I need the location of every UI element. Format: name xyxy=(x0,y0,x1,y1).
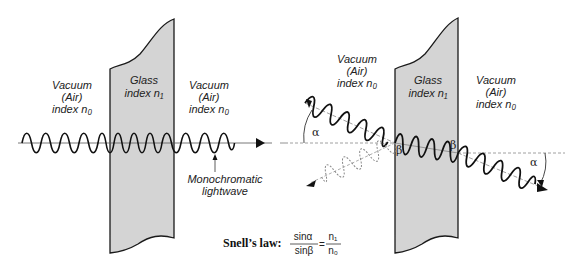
formula-n0: n₀ xyxy=(328,245,338,256)
label-monochromatic: Monochromatic xyxy=(187,173,263,185)
label-beta-entry: β xyxy=(396,144,402,157)
reflected-arrowhead xyxy=(306,180,316,187)
label-air-right: (Air) xyxy=(199,91,220,103)
label-vacuum-right: Vacuum xyxy=(189,79,229,91)
exit-wave xyxy=(455,145,539,193)
label-lightwave: lightwave xyxy=(202,185,248,197)
label-air-incident-side: (Air) xyxy=(347,65,368,77)
label-index-glass: index n₁ xyxy=(125,87,164,99)
label-air-left: (Air) xyxy=(62,91,83,103)
label-air-exit-side: (Air) xyxy=(486,86,507,98)
label-index-incident-side: index n₀ xyxy=(337,77,377,89)
formula-title: Snell’s law: xyxy=(223,236,282,250)
label-index-glass-right: index n₁ xyxy=(409,87,448,99)
angle-arc-incident xyxy=(304,110,312,143)
right-panel: α β β α Vacuum (Air) index n₀ Glass inde… xyxy=(290,18,565,253)
label-index-right: index n₀ xyxy=(189,103,229,115)
formula-sin-beta: sinβ xyxy=(295,245,314,256)
label-index-left: index n₀ xyxy=(52,103,92,115)
wave-pointer-arrow xyxy=(213,154,218,160)
left-panel: Vacuum (Air) index n₀ Glass index n₁ Vac… xyxy=(18,19,288,253)
glass-slab-right xyxy=(395,18,458,253)
label-index-exit-side: index n₀ xyxy=(476,98,516,110)
label-vacuum-incident-side: Vacuum xyxy=(337,53,377,65)
formula-n1: n₁ xyxy=(329,231,339,242)
formula-equals: = xyxy=(319,239,325,250)
label-vacuum-left: Vacuum xyxy=(52,79,92,91)
snells-law-diagram: Vacuum (Air) index n₀ Glass index n₁ Vac… xyxy=(0,0,576,273)
label-glass: Glass xyxy=(130,74,159,86)
label-alpha-incident: α xyxy=(312,126,320,139)
label-alpha-exit: α xyxy=(530,156,538,169)
snells-law-formula: Snell’s law: sinα sinβ = n₁ n₀ xyxy=(223,231,341,256)
label-vacuum-exit-side: Vacuum xyxy=(476,74,516,86)
wave-arrowhead-left xyxy=(256,138,265,148)
angle-arc-exit xyxy=(540,153,546,184)
formula-sin-alpha: sinα xyxy=(294,231,313,242)
label-beta-exit: β xyxy=(450,139,456,152)
label-glass-right: Glass xyxy=(414,74,443,86)
